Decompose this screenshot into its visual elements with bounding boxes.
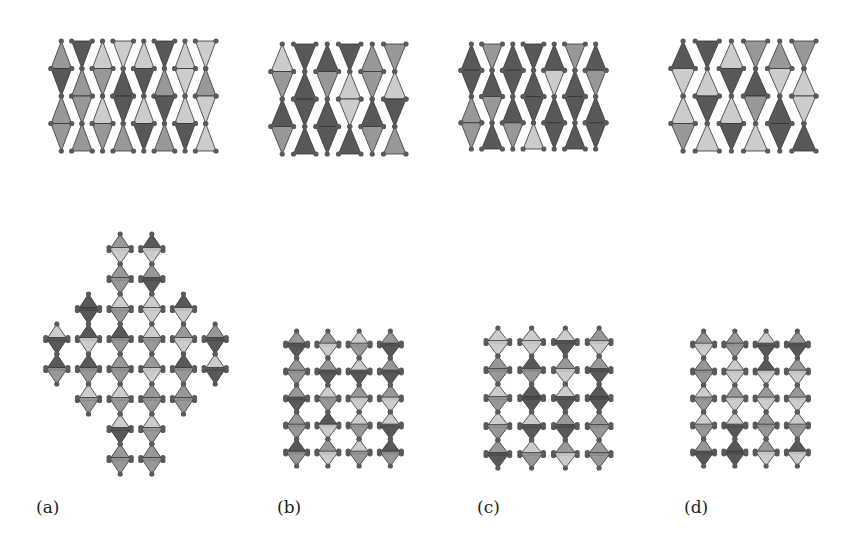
panel-label-b: (b): [277, 497, 301, 517]
structure-c-top-view: [475, 322, 625, 477]
structure-b-top-view: [275, 325, 415, 475]
structure-a-top-view: [35, 228, 240, 483]
structure-c-side-view: [455, 38, 615, 158]
structure-d-top-view: [682, 325, 822, 475]
structure-a-side-view: [45, 35, 225, 160]
structure-d-side-view: [665, 35, 825, 160]
panel-label-d: (d): [684, 497, 708, 517]
panel-label-c: (c): [477, 497, 500, 517]
panel-label-a: (a): [36, 497, 59, 517]
structure-b-side-view: [265, 38, 415, 163]
